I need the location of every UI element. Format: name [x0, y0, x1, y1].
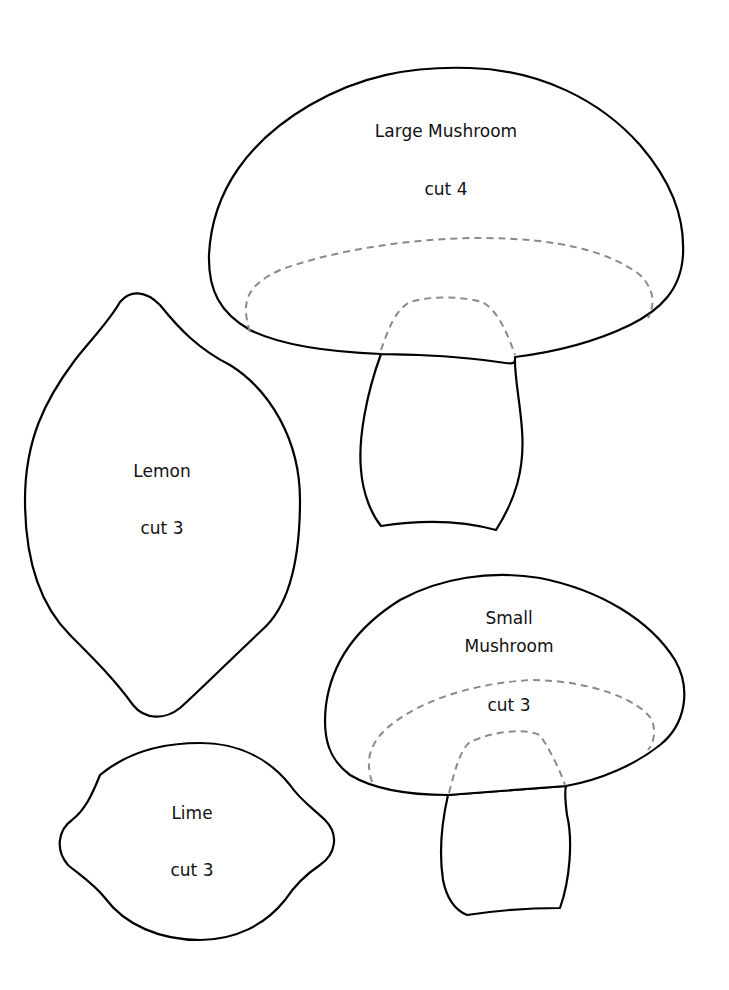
large-mushroom-cap-outline — [209, 68, 683, 364]
large-mushroom-stem-outline — [360, 354, 522, 530]
lime-instruction: cut 3 — [170, 859, 213, 881]
lemon-instruction: cut 3 — [140, 517, 183, 539]
small-mushroom-instruction: cut 3 — [487, 694, 530, 716]
lime-title: Lime — [171, 802, 212, 824]
small-mushroom-title-line2: Mushroom — [464, 635, 553, 657]
large-mushroom-title: Large Mushroom — [375, 120, 517, 142]
small-mushroom-title-line1: Small — [485, 607, 532, 629]
small-mushroom-stem-outline — [441, 786, 570, 915]
lime-outline — [60, 743, 334, 940]
template-sheet — [0, 0, 729, 990]
large-mushroom-instruction: cut 4 — [424, 178, 467, 200]
lemon-outline — [25, 293, 300, 716]
lemon-title: Lemon — [133, 460, 190, 482]
